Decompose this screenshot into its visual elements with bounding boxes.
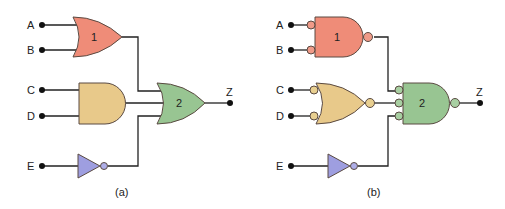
- input-label-a: A: [276, 19, 284, 31]
- or-output-bubble: [366, 99, 375, 108]
- input-dot-b: [39, 47, 45, 53]
- not-bubble: [101, 163, 108, 170]
- gate-2-input-bubble-3: [395, 112, 403, 120]
- gate-1-label: 1: [334, 31, 340, 43]
- input-dot-d: [39, 113, 45, 119]
- input-label-b: B: [27, 44, 34, 56]
- input-bubble-b: [307, 46, 315, 54]
- gate-1-output-bubble: [364, 33, 373, 42]
- logic-circuit-diagram: 1 2 A B C D E Z (a): [0, 0, 505, 209]
- input-bubble-d: [310, 112, 318, 120]
- input-dot-e: [39, 163, 45, 169]
- caption-a: (a): [115, 186, 128, 198]
- input-label-c: C: [276, 84, 284, 96]
- input-dot-c: [39, 87, 45, 93]
- output-dot-z: [477, 100, 483, 106]
- or-gate-1: [73, 17, 122, 57]
- input-dot-d: [288, 113, 294, 119]
- output-label-z: Z: [226, 86, 233, 98]
- input-dot-a: [39, 22, 45, 28]
- gate-2-input-bubble-2: [395, 99, 403, 107]
- input-dot-c: [288, 87, 294, 93]
- output-label-z: Z: [476, 86, 483, 98]
- input-label-e: E: [276, 160, 283, 172]
- input-bubble-c: [310, 86, 318, 94]
- wire-gate1-to-gate2: [374, 37, 395, 91]
- input-dot-e: [288, 163, 294, 169]
- input-dot-a: [288, 22, 294, 28]
- input-label-d: D: [27, 110, 35, 122]
- panel-a: 1 2 A B C D E Z (a): [27, 17, 233, 198]
- gate-2-input-bubble-1: [395, 86, 403, 94]
- input-label-c: C: [27, 84, 35, 96]
- gate-1-label: 1: [91, 31, 97, 43]
- output-dot-z: [227, 100, 233, 106]
- gate-2-output-bubble: [451, 99, 460, 108]
- input-label-d: D: [276, 110, 284, 122]
- not-bubble: [351, 163, 358, 170]
- not-gate: [78, 154, 100, 178]
- caption-b: (b): [367, 186, 380, 198]
- and-gate: [79, 83, 126, 124]
- input-bubble-a: [307, 21, 315, 29]
- input-dot-b: [288, 47, 294, 53]
- gate-2-label: 2: [176, 97, 182, 109]
- and-gate-2: [403, 83, 449, 124]
- wire-gate1-to-gate2: [122, 37, 162, 91]
- or-gate: [316, 83, 365, 124]
- input-label-a: A: [27, 19, 35, 31]
- wire-not-to-gate2: [108, 116, 162, 166]
- input-label-b: B: [276, 44, 283, 56]
- not-gate: [328, 154, 350, 178]
- gate-2-label: 2: [419, 97, 425, 109]
- input-label-e: E: [27, 160, 34, 172]
- panel-b: 1 2 A B C D E Z (b): [276, 17, 483, 198]
- wire-not-to-gate2: [358, 116, 395, 166]
